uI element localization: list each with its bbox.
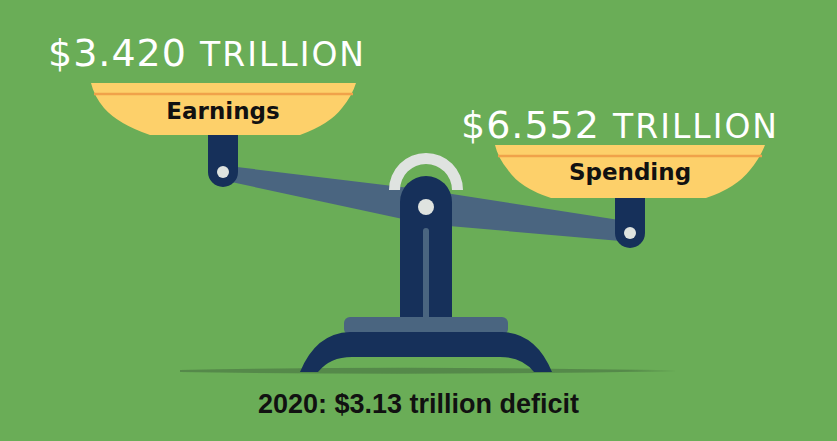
spending-amount: $6.552 TRILLION <box>461 106 779 144</box>
spending-amount-unit: TRILLION <box>613 107 779 146</box>
left-hinge-dot <box>217 166 229 178</box>
right-hinge <box>615 195 645 248</box>
earnings-label: Earnings <box>92 98 354 124</box>
pivot-dot <box>418 199 434 215</box>
spending-label: Spending <box>496 159 764 185</box>
scale-foot <box>300 332 552 372</box>
spending-amount-number: $6.552 <box>461 103 600 147</box>
deficit-caption: 2020: $3.13 trillion deficit <box>0 389 837 420</box>
earnings-amount-number: $3.420 <box>48 31 187 75</box>
right-hinge-dot <box>624 227 636 239</box>
earnings-amount-unit: TRILLION <box>200 35 366 74</box>
earnings-amount: $3.420 TRILLION <box>48 34 366 72</box>
left-hinge <box>208 132 238 187</box>
ground-shadow <box>180 368 676 374</box>
post-groove <box>423 228 429 322</box>
